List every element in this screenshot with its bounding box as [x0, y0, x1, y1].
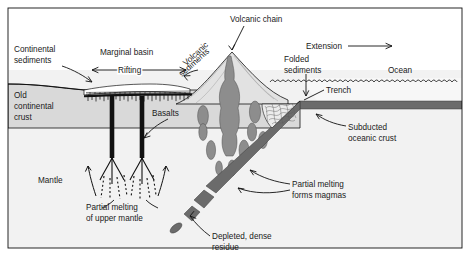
geology-cross-section-figure: Continental sediments Marginal basin Rif…: [0, 0, 470, 264]
label-old-continental-crust-line2: continental: [14, 102, 54, 111]
label-partial-melting-upper-mantle-line2: of upper mantle: [86, 214, 143, 223]
label-basalts: Basalts: [152, 109, 179, 118]
label-folded-sediments-line2: sediments: [284, 66, 321, 75]
label-trench: Trench: [326, 86, 352, 95]
label-extension: Extension: [306, 42, 342, 51]
cross-section-svg: Continental sediments Marginal basin Rif…: [0, 0, 470, 264]
label-old-continental-crust-line1: Old: [14, 91, 27, 100]
label-depleted-residue-line1: Depleted, dense: [212, 232, 272, 241]
label-folded-sediments-line1: Folded: [284, 55, 309, 64]
label-continental-sediments-line2: sediments: [14, 56, 51, 65]
label-partial-melting-upper-mantle-line1: Partial melting: [86, 203, 138, 212]
label-continental-sediments-line1: Continental: [14, 45, 56, 54]
label-marginal-basin: Marginal basin: [100, 48, 154, 57]
label-depleted-residue-line2: residue: [212, 243, 239, 252]
label-subducted-line1: Subducted: [348, 123, 388, 132]
label-ocean: Ocean: [388, 66, 413, 75]
label-mantle: Mantle: [38, 176, 63, 185]
label-rifting: Rifting: [118, 66, 142, 75]
label-subducted-line2: oceanic crust: [348, 134, 397, 143]
oceanic-crust-plate: [300, 101, 462, 109]
label-partial-melting-magmas-line2: forms magmas: [292, 191, 346, 200]
label-old-continental-crust-line3: crust: [14, 113, 32, 122]
label-partial-melting-magmas-line1: Partial melting: [292, 180, 344, 189]
ocean-water-region: [300, 78, 462, 102]
label-volcanic-chain: Volcanic chain: [230, 15, 283, 24]
